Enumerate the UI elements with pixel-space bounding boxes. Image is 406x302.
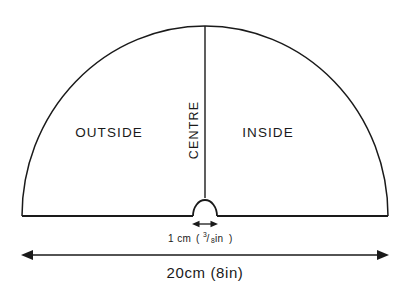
neck-dimension-imperial-unit: in (215, 233, 224, 244)
neck-dimension-arrowhead-left (192, 221, 200, 228)
neck-dimension-open-paren: ( (196, 233, 200, 244)
overall-dimension-arrowhead-right (377, 250, 389, 260)
region-label-inside: INSIDE (242, 125, 294, 140)
overall-dimension-label: 20cm (8in) (167, 264, 244, 281)
neck-dimension-metric: 1 cm (168, 233, 191, 244)
pattern-drawing-canvas: OUTSIDE INSIDE CENTRE 1 cm ( 3 / 8 in ) … (0, 0, 406, 302)
neck-dimension-close-paren: ) (229, 233, 233, 244)
region-label-centre: CENTRE (187, 101, 201, 160)
region-label-outside: OUTSIDE (75, 125, 143, 140)
neck-opening-arc (193, 200, 217, 216)
neck-dimension-label: 1 cm ( 3 / 8 in ) (168, 231, 233, 244)
neck-dimension-arrowhead-right (211, 221, 219, 228)
neck-dimension-fraction-slash: / (207, 233, 210, 244)
pattern-diagram: OUTSIDE INSIDE CENTRE 1 cm ( 3 / 8 in ) … (0, 0, 406, 302)
overall-dimension-arrowhead-left (21, 250, 33, 260)
